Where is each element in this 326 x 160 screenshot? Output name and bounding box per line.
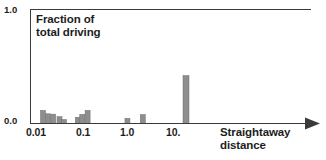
bar [183,76,189,124]
bar [85,110,90,123]
y-tick-label-bottom: 0.0 [4,116,17,127]
bar [80,114,85,123]
chart-figure: 1.0 0.0 Fraction of total driving 0.01 0… [0,0,326,160]
x-axis-title-line-2: distance [220,139,266,152]
y-tick-label-top: 1.0 [4,5,17,16]
bar [125,118,130,123]
bar-series [40,76,189,124]
bar [51,114,56,123]
chart-title-line-1: Fraction of [36,13,94,26]
chart-title-line-2: total driving [36,26,101,39]
x-axis-title-line-1: Straightaway [220,126,290,139]
x-tick-label-2: 1.0 [120,127,134,139]
x-tick-label-3: 10. [166,127,180,139]
bar [40,110,45,123]
bar [140,115,145,124]
x-axis-arrow-icon [305,118,320,130]
x-tick-label-1: 0.1 [76,127,90,139]
bar [46,114,51,124]
x-tick-label-0: 0.01 [26,127,46,139]
